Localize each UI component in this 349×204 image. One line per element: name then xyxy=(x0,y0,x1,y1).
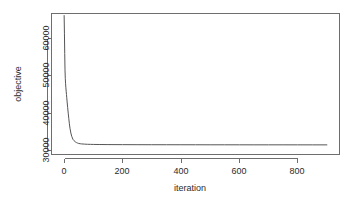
x-axis-title: iteration xyxy=(174,183,206,193)
y-tick-label-30000: 30000 xyxy=(41,137,51,162)
y-axis-tick-labels: 30000 40000 50000 60000 xyxy=(41,25,51,162)
x-tick-label-600: 600 xyxy=(231,166,246,176)
x-axis-ticks xyxy=(65,159,298,163)
y-tick-label-60000: 60000 xyxy=(41,25,51,50)
x-tick-label-800: 800 xyxy=(289,166,304,176)
y-axis-title: objective xyxy=(13,66,23,102)
x-tick-label-400: 400 xyxy=(173,166,188,176)
x-tick-label-0: 0 xyxy=(61,166,66,176)
y-axis-ticks xyxy=(48,39,52,151)
plot-area-background xyxy=(51,13,340,155)
x-tick-label-200: 200 xyxy=(114,166,129,176)
y-tick-label-40000: 40000 xyxy=(41,100,51,125)
chart-figure: 30000 40000 50000 60000 objective 0 200 … xyxy=(0,0,349,204)
x-axis-tick-labels: 0 200 400 600 800 xyxy=(61,166,304,176)
y-tick-label-50000: 50000 xyxy=(41,62,51,87)
line-chart-objective-vs-iteration: 30000 40000 50000 60000 objective 0 200 … xyxy=(0,0,349,204)
